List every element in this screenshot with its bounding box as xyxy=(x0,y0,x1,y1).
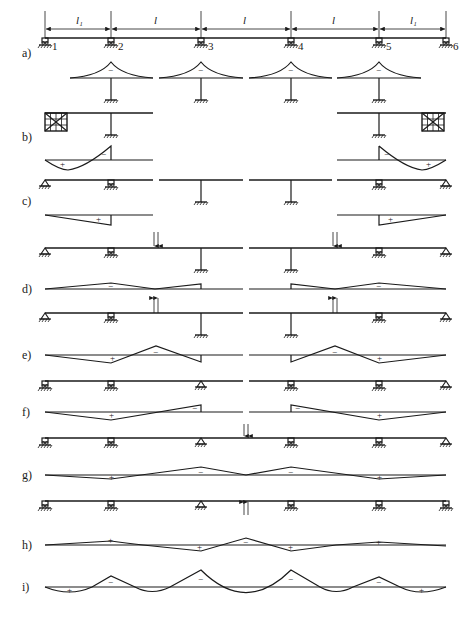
pin-support-icon xyxy=(440,438,452,447)
svg-text:+: + xyxy=(419,585,424,595)
support-number-1: 1 xyxy=(52,40,58,52)
svg-text:−: − xyxy=(288,467,293,477)
support-number-2: 2 xyxy=(118,40,124,52)
roller-support-icon xyxy=(372,180,386,190)
roller-support-icon xyxy=(104,381,118,391)
panel-label-g: g) xyxy=(22,468,32,482)
svg-text:−: − xyxy=(243,537,248,547)
moment-diagram-d: − − xyxy=(45,281,446,291)
panel-label-e: e) xyxy=(22,348,31,362)
panel-label-b: b) xyxy=(22,130,32,144)
moment-diagram-e: + − − + xyxy=(45,346,446,363)
roller-support-icon xyxy=(38,38,52,48)
panel-label-c: c) xyxy=(22,194,31,208)
svg-text:−: − xyxy=(288,65,293,75)
panel-label-i: i) xyxy=(22,580,29,594)
pin-support-icon xyxy=(440,313,452,322)
svg-text:−: − xyxy=(153,347,158,357)
panel-g: g) + − − + xyxy=(22,424,452,482)
roller-support-icon xyxy=(372,38,386,48)
panel-h: h) + + − + + xyxy=(22,501,453,552)
svg-text:−: − xyxy=(288,574,293,584)
svg-text:+: + xyxy=(197,542,202,552)
roller-support-icon xyxy=(104,501,118,511)
roller-support-icon xyxy=(284,38,298,48)
roller-support-icon xyxy=(104,313,118,323)
pin-support-icon xyxy=(195,381,207,390)
svg-text:+: + xyxy=(288,542,293,552)
span-label-l-1: l xyxy=(154,14,157,26)
moment-diagram-i: + − − − − + xyxy=(45,570,446,595)
pin-support-icon xyxy=(440,381,452,390)
svg-text:−: − xyxy=(108,65,113,75)
svg-text:+: + xyxy=(388,214,393,224)
pin-support-icon xyxy=(440,180,452,189)
svg-text:+: + xyxy=(426,159,431,169)
svg-text:−: − xyxy=(332,347,337,357)
structural-diagram: l₁ l l l l₁ 1 2 3 4 5 6 a) − − xyxy=(0,0,474,619)
panel-label-f: f) xyxy=(22,405,30,419)
panel-label-a: a) xyxy=(22,46,31,60)
svg-text:−: − xyxy=(198,65,203,75)
svg-text:−: − xyxy=(376,577,381,587)
roller-support-icon xyxy=(372,438,386,448)
svg-text:+: + xyxy=(376,537,381,547)
support-number-3: 3 xyxy=(208,40,214,52)
load-arrows-down-icon xyxy=(244,424,248,436)
svg-text:−: − xyxy=(295,403,300,413)
svg-text:+: + xyxy=(377,410,382,420)
support-number-6: 6 xyxy=(453,40,459,52)
pin-support-icon xyxy=(440,248,452,257)
svg-text:−: − xyxy=(101,149,106,159)
roller-support-icon xyxy=(38,501,52,511)
svg-text:+: + xyxy=(109,472,114,482)
roller-support-icon xyxy=(104,438,118,448)
roller-support-icon xyxy=(439,38,453,48)
roller-support-icon xyxy=(194,38,208,48)
rigid-block-icon xyxy=(45,113,67,131)
panel-f: f) + − − + xyxy=(22,381,452,420)
roller-support-icon xyxy=(284,381,298,391)
panel-c: c) + + xyxy=(22,180,452,225)
pin-support-icon xyxy=(195,438,207,447)
moment-diagram-a: − − − − xyxy=(70,62,421,103)
panel-a: l₁ l l l l₁ 1 2 3 4 5 6 a) − − xyxy=(22,11,459,103)
svg-text:−: − xyxy=(108,577,113,587)
span-label-l-2: l xyxy=(243,14,246,26)
svg-text:−: − xyxy=(198,467,203,477)
support-number-5: 5 xyxy=(386,40,392,52)
roller-support-icon xyxy=(38,438,52,448)
svg-text:−: − xyxy=(376,65,381,75)
pin-support-icon xyxy=(195,501,207,510)
svg-text:+: + xyxy=(67,585,72,595)
panel-label-d: d) xyxy=(22,282,32,296)
svg-text:+: + xyxy=(109,410,114,420)
moment-diagram-h: + + − + + xyxy=(45,535,446,552)
load-arrows-up-icon xyxy=(244,502,248,515)
span-label-l1-left: l₁ xyxy=(76,14,83,26)
svg-text:−: − xyxy=(108,281,113,291)
pin-support-icon xyxy=(39,180,51,189)
load-arrows-down-icon xyxy=(154,232,337,246)
moment-diagram-f: + − − + xyxy=(45,403,446,420)
svg-text:+: + xyxy=(60,159,65,169)
rigid-block-icon xyxy=(422,113,444,131)
panel-b: b) + − − + xyxy=(22,113,446,170)
roller-support-icon xyxy=(104,180,118,190)
moment-diagram-c: + + xyxy=(45,214,446,225)
svg-text:+: + xyxy=(108,535,113,545)
moment-diagram-b: + − − + xyxy=(45,146,446,170)
roller-support-icon xyxy=(372,248,386,258)
roller-support-icon xyxy=(38,381,52,391)
pin-support-icon xyxy=(39,313,51,322)
roller-support-icon xyxy=(372,313,386,323)
svg-text:−: − xyxy=(384,149,389,159)
svg-text:+: + xyxy=(377,472,382,482)
pin-support-icon xyxy=(39,248,51,257)
svg-text:−: − xyxy=(198,574,203,584)
roller-support-icon xyxy=(104,38,118,48)
roller-support-icon xyxy=(372,501,386,511)
svg-text:−: − xyxy=(192,403,197,413)
moment-diagram-g: + − − + xyxy=(45,467,446,482)
span-label-l-3: l xyxy=(332,14,335,26)
